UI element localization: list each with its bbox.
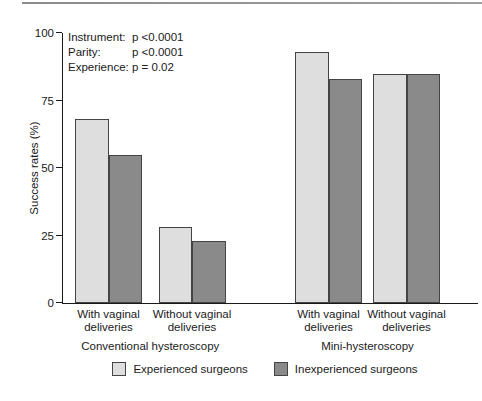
annotation-row-parity: Parity: p <0.0001 <box>68 45 183 60</box>
y-tick-label-25: 25 <box>20 229 54 243</box>
x-category-line1: Without vaginal <box>135 308 249 321</box>
group-label-mini-hysteroscopy: Mini-hysteroscopy <box>268 340 468 353</box>
bar-group3-inexperienced-surgeons <box>407 74 441 304</box>
annotation-label: Instrument: <box>68 30 132 45</box>
x-axis-line <box>62 303 478 304</box>
group-label-conventional-hysteroscopy: Conventional hysteroscopy <box>50 340 250 353</box>
x-category-line2: deliveries <box>350 321 464 334</box>
legend-label-experienced: Experienced surgeons <box>133 362 247 376</box>
annotation-row-instrument: Instrument: p <0.0001 <box>68 30 183 45</box>
bar-group1-inexperienced-surgeons <box>192 241 226 303</box>
y-tick-50 <box>56 167 62 168</box>
y-tick-100 <box>56 32 62 33</box>
bar-group0-experienced-surgeons <box>75 119 109 303</box>
bar-group3-experienced-surgeons <box>373 74 407 304</box>
y-tick-label-100: 100 <box>20 26 54 40</box>
x-category-label-3: Without vaginaldeliveries <box>350 308 464 334</box>
annotation-value: p = 0.02 <box>132 60 174 75</box>
legend-label-inexperienced: Inexperienced surgeons <box>295 362 418 376</box>
bar-group1-experienced-surgeons <box>159 227 193 303</box>
y-tick-label-0: 0 <box>20 296 54 310</box>
y-tick-75 <box>56 100 62 101</box>
annotation-label: Parity: <box>68 45 132 60</box>
figure-panel: Instrument: p <0.0001 Parity: p <0.0001 … <box>0 0 482 401</box>
top-rule <box>22 2 482 4</box>
legend-swatch-inexperienced <box>274 362 288 376</box>
legend-item-experienced: Experienced surgeons <box>112 362 247 376</box>
x-category-label-1: Without vaginaldeliveries <box>135 308 249 334</box>
y-tick-label-50: 50 <box>20 161 54 175</box>
x-category-line1: Without vaginal <box>350 308 464 321</box>
y-tick-0 <box>56 302 62 303</box>
stats-annotation: Instrument: p <0.0001 Parity: p <0.0001 … <box>68 30 183 75</box>
legend-swatch-experienced <box>112 362 126 376</box>
y-tick-label-75: 75 <box>20 94 54 108</box>
annotation-value: p <0.0001 <box>132 30 183 45</box>
annotation-label: Experience: <box>68 60 132 75</box>
legend: Experienced surgeons Inexperienced surge… <box>55 362 475 376</box>
annotation-row-experience: Experience: p = 0.02 <box>68 60 183 75</box>
x-category-line2: deliveries <box>135 321 249 334</box>
bar-group0-inexperienced-surgeons <box>109 155 143 304</box>
bar-group2-experienced-surgeons <box>295 52 329 303</box>
y-tick-25 <box>56 235 62 236</box>
y-axis-line <box>62 33 63 303</box>
annotation-value: p <0.0001 <box>132 45 183 60</box>
bar-group2-inexperienced-surgeons <box>329 79 363 303</box>
legend-item-inexperienced: Inexperienced surgeons <box>274 362 418 376</box>
